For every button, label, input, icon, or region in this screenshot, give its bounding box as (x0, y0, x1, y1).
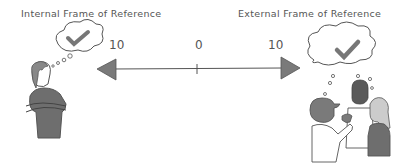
left-arrowhead-icon (97, 59, 116, 80)
person-arms-crossed-icon (26, 62, 66, 139)
illustration (0, 0, 410, 164)
double-arrow-scale (97, 57, 300, 80)
internal-thought-bubble-icon (52, 19, 103, 67)
raised-hand-icon (342, 114, 352, 123)
right-arrowhead-icon (281, 57, 300, 79)
group-of-people-icon (310, 80, 390, 162)
